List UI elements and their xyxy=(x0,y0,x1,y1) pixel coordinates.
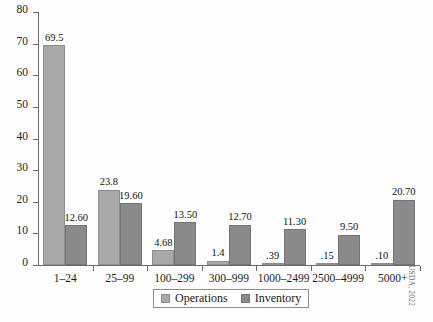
x-axis-category-label: 25–99 xyxy=(93,272,148,284)
legend-item-operations[interactable]: Operations xyxy=(161,292,228,304)
x-axis-category-label: 2500–4999 xyxy=(311,272,366,284)
x-axis-tick-mark xyxy=(93,266,94,271)
bar-chart-figure: 01020304050607080 69.512.6023.819.604.68… xyxy=(0,0,433,322)
y-axis-tick-mark xyxy=(33,265,38,266)
inventory-swatch-icon xyxy=(241,294,250,303)
x-axis-category-label: 300–999 xyxy=(202,272,257,284)
bar-value-label: 12.60 xyxy=(53,213,99,224)
bar-inventory[interactable] xyxy=(338,235,360,265)
bar-value-label: 9.50 xyxy=(326,222,372,233)
x-axis-tick-mark xyxy=(420,266,421,271)
bar-inventory[interactable] xyxy=(174,222,196,265)
bar-inventory[interactable] xyxy=(284,229,306,265)
legend-label-operations: Operations xyxy=(175,292,228,304)
bar-operations[interactable] xyxy=(152,250,174,265)
bar-value-label: 13.50 xyxy=(162,210,208,221)
y-axis-tick-label: 20 xyxy=(17,194,29,206)
bar-operations[interactable] xyxy=(207,261,229,265)
x-axis-category-label: 1000–2499 xyxy=(256,272,311,284)
y-axis-tick-label: 70 xyxy=(17,36,29,48)
bar-operations[interactable] xyxy=(43,45,65,265)
legend-label-inventory: Inventory xyxy=(255,292,302,304)
plot-area: 69.512.6023.819.604.6813.501.412.70.3911… xyxy=(38,12,420,265)
x-axis-category-label: 1–24 xyxy=(38,272,93,284)
legend-item-inventory[interactable]: Inventory xyxy=(241,292,302,304)
chart-legend: Operations Inventory xyxy=(153,289,309,308)
y-axis-tick-label: 80 xyxy=(17,4,29,16)
x-axis-tick-mark xyxy=(311,266,312,271)
y-axis-tick-label: 40 xyxy=(17,131,29,143)
bar-inventory[interactable] xyxy=(393,200,415,265)
y-axis-tick-label: 10 xyxy=(17,225,29,237)
bar-value-label: 69.5 xyxy=(31,33,77,44)
bar-operations[interactable] xyxy=(316,263,338,265)
y-axis-tick-label: 0 xyxy=(22,257,28,269)
y-axis-tick-label: 60 xyxy=(17,67,29,79)
source-credit: USDA, 2022 xyxy=(407,265,415,306)
bar-value-label: 11.30 xyxy=(272,217,318,228)
bar-value-label: 12.70 xyxy=(217,212,263,223)
x-axis-category-label: 100–299 xyxy=(147,272,202,284)
bar-operations[interactable] xyxy=(371,263,393,265)
y-axis-tick-label: 30 xyxy=(17,162,29,174)
x-axis-tick-mark xyxy=(256,266,257,271)
y-axis-tick-label: 50 xyxy=(17,99,29,111)
operations-swatch-icon xyxy=(161,294,170,303)
bar-value-label: 20.70 xyxy=(381,187,427,198)
x-axis-line xyxy=(38,265,420,266)
x-axis-tick-mark xyxy=(147,266,148,271)
bar-inventory[interactable] xyxy=(120,203,142,265)
bar-value-label: 19.60 xyxy=(108,191,154,202)
bar-value-label: 23.8 xyxy=(86,177,132,188)
x-axis-tick-mark xyxy=(365,266,366,271)
bar-operations[interactable] xyxy=(262,263,284,265)
bar-operations[interactable] xyxy=(98,190,120,265)
bar-inventory[interactable] xyxy=(229,225,251,265)
bar-inventory[interactable] xyxy=(65,225,87,265)
x-axis-tick-mark xyxy=(202,266,203,271)
